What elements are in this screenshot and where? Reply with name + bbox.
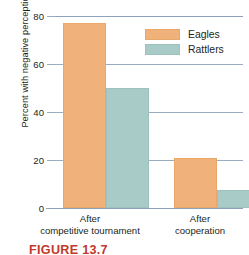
y-tick-label-0: 0: [39, 203, 44, 214]
y-axis-title: Percent with negative perceptions: [20, 0, 30, 152]
x-category-first-line2: competitive tournament: [21, 225, 159, 237]
x-category-first-line1: After: [21, 213, 159, 225]
legend-label-eagles: Eagles: [188, 29, 220, 40]
y-tick-label-80: 80: [33, 11, 44, 22]
bar-rattlers-after-cooperation[interactable]: [217, 190, 249, 208]
tick-mark-80: [47, 16, 55, 17]
bar-eagles-after-competitive-tournament[interactable]: [63, 23, 106, 208]
figure-container: Percent with negative perceptions 80 60 …: [0, 0, 249, 255]
bar-eagles-after-cooperation[interactable]: [174, 158, 217, 208]
x-axis-line: [46, 208, 243, 209]
tick-mark-20: [47, 160, 55, 161]
bar-rattlers-after-competitive-tournament[interactable]: [106, 88, 149, 208]
legend-item-eagles[interactable]: Eagles: [145, 27, 224, 42]
y-tick-label-20: 20: [33, 155, 44, 166]
x-category-second-line1: After: [152, 213, 248, 225]
tick-mark-40: [47, 112, 55, 113]
tick-mark-60: [47, 64, 55, 65]
x-category-second-line2: cooperation: [152, 225, 248, 237]
figure-caption: FIGURE 13.7: [29, 243, 108, 255]
legend-item-rattlers[interactable]: Rattlers: [145, 42, 224, 57]
legend: Eagles Rattlers: [145, 27, 224, 57]
y-tick-label-40: 40: [33, 107, 44, 118]
gridline-80: [55, 16, 243, 17]
y-tick-label-60: 60: [33, 59, 44, 70]
legend-swatch-rattlers: [145, 44, 180, 55]
legend-swatch-eagles: [145, 29, 180, 40]
x-category-label-second: After cooperation: [152, 213, 248, 236]
x-category-label-first: After competitive tournament: [21, 213, 159, 236]
legend-label-rattlers: Rattlers: [188, 44, 224, 55]
